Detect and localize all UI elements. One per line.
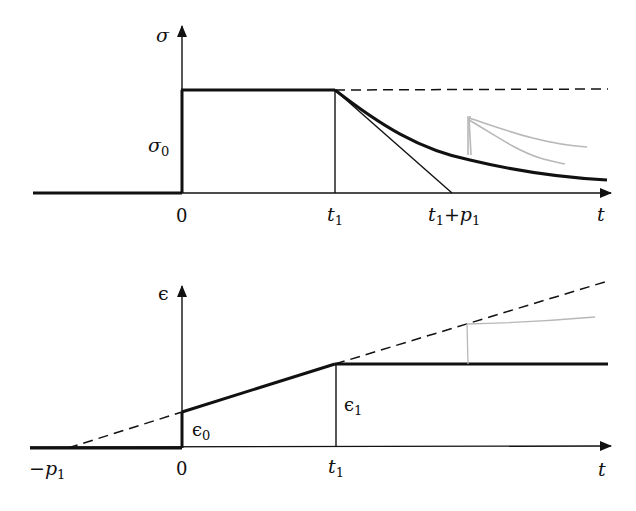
stress-dashed-continuation <box>335 89 608 90</box>
pencil-annotation-top <box>468 117 587 164</box>
top-t1-tick-label: t1 <box>327 203 343 228</box>
strain-dashed-continuation <box>335 281 608 364</box>
sigma0-label: σ0 <box>148 134 169 159</box>
relaxation-curve <box>335 90 607 180</box>
bottom-plot: ϵ ϵ0 ϵ1 −p1 0 t1 t <box>29 281 611 482</box>
eps1-label: ϵ1 <box>344 394 362 418</box>
bottom-y-axis-label: ϵ <box>158 282 169 304</box>
top-plot: σ σ0 0 t1 t1+p1 t <box>33 24 611 228</box>
bottom-t1-tick-label: t1 <box>328 455 344 480</box>
strain-linear-rise <box>182 364 335 412</box>
bottom-zero-tick-label: 0 <box>176 458 187 479</box>
pencil-annotation-bottom <box>467 317 595 364</box>
neg-p1-tick-label: −p1 <box>29 457 65 482</box>
strain-dashed-extrapolation-left <box>68 412 182 448</box>
bottom-x-axis-label: t <box>598 458 606 480</box>
diagram-canvas: σ σ0 0 t1 t1+p1 t <box>0 0 636 511</box>
top-zero-tick-label: 0 <box>176 205 187 226</box>
t1-plus-p1-tick-label: t1+p1 <box>428 203 480 228</box>
eps0-label: ϵ0 <box>192 419 210 443</box>
initial-tangent <box>335 90 452 193</box>
top-x-axis-label: t <box>597 203 605 225</box>
top-y-axis-label: σ <box>156 24 170 46</box>
